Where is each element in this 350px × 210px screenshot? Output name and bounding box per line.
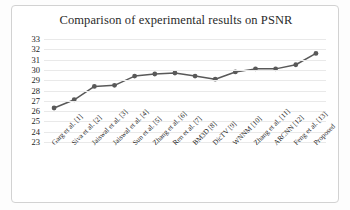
data-point-marker: Proposed: 31.6 (314, 51, 319, 56)
y-axis-tick-label: 24 (32, 127, 41, 136)
y-axis-tick-label: 25 (32, 117, 41, 126)
y-axis-tick-label: 33 (32, 35, 41, 44)
data-point-marker: Zhang et al. [6]: 29.6 (152, 72, 157, 77)
gridline (44, 70, 326, 71)
y-axis-tick-label: 23 (32, 138, 41, 147)
data-point-marker: Garg et al. [1]: 26.3 (52, 106, 57, 111)
gridline (44, 80, 326, 81)
y-axis-tick-label: 32 (32, 45, 41, 54)
data-point-marker: BM3D [8]: 29.4 (193, 74, 198, 79)
y-axis-tick-label: 31 (32, 55, 41, 64)
gridline (44, 60, 326, 61)
y-axis-tick-label: 26 (32, 107, 41, 116)
gridline (44, 49, 326, 50)
data-point-marker: Jaiswal et al. [4]: 28.5 (112, 83, 117, 88)
plot-wrapper: 3332313029282726252423 Garg et al. [1]: … (12, 6, 340, 204)
data-point-marker: Ren et al. [7]: 29.7 (173, 71, 178, 76)
data-point-marker: Feng et al. [13]: 30.5 (293, 62, 298, 67)
gridline (44, 39, 326, 40)
chart-frame: Comparison of experimental results on PS… (11, 5, 339, 203)
y-axis-tick-label: 30 (32, 66, 41, 75)
gridline (44, 101, 326, 102)
y-axis-tick-label: 27 (32, 97, 41, 106)
gridline (44, 91, 326, 92)
x-axis: Garg et al. [1]Siva et al. [2]Jaiswal et… (44, 142, 326, 202)
data-point-marker: Sun et al. [5]: 29.4 (132, 74, 137, 79)
y-axis-tick-label: 28 (32, 86, 41, 95)
gridline (44, 121, 326, 122)
data-point-marker: Jaiswal et al. [3]: 28.4 (92, 84, 97, 89)
y-axis: 3332313029282726252423 (14, 39, 42, 142)
figure-container: Comparison of experimental results on PS… (0, 0, 350, 210)
y-axis-tick-label: 29 (32, 76, 41, 85)
